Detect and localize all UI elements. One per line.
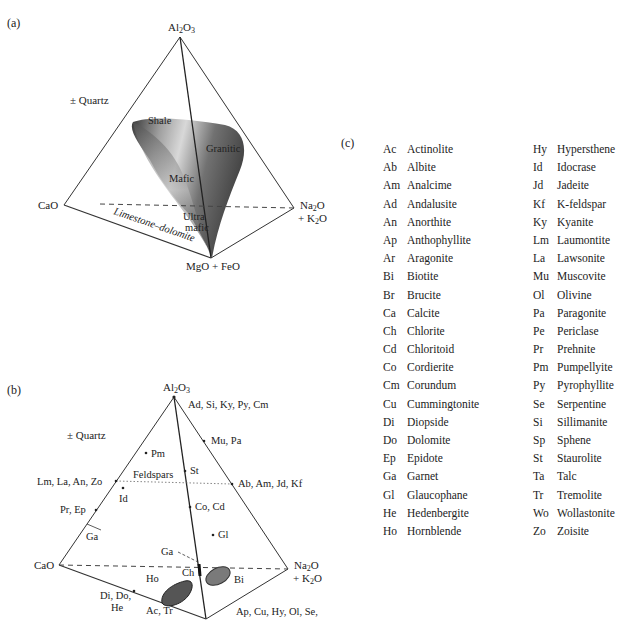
label-ap-cu: Ap, Cu, Hy, Ol, Se, xyxy=(236,606,318,617)
legend-item: DoDolomite xyxy=(383,431,479,449)
label-gl: Gl xyxy=(218,529,229,540)
legend-item: OlOlivine xyxy=(533,286,615,304)
panel-c-label: (c) xyxy=(341,136,354,151)
legend-item: HeHedenbergite xyxy=(383,504,479,522)
label-st: St xyxy=(190,465,199,476)
legend-item: BiBiotite xyxy=(383,267,479,285)
legend-item: HyHypersthene xyxy=(533,140,615,158)
label-bi: Bi xyxy=(234,574,244,585)
label-ad-si: Ad, Si, Ky, Py, Cm xyxy=(188,399,268,410)
legend-item: SeSerpentine xyxy=(533,395,615,413)
vertex-al2o3: Al2O3 xyxy=(168,21,195,35)
vertex-na2o: Na2O xyxy=(300,199,325,213)
legend-item: PmPumpellyite xyxy=(533,358,615,376)
vertex-na2o-b: Na2O xyxy=(294,559,319,573)
label-ga-center: Ga xyxy=(161,546,174,557)
legend-item: JdJadeite xyxy=(533,176,615,194)
label-ga-left: Ga xyxy=(86,531,99,542)
label-co-cd: Co, Cd xyxy=(195,501,226,512)
vertex-k2o: + K2O xyxy=(298,212,327,226)
legend-right-column: HyHypersthene IdIdocrase JdJadeite KfK-f… xyxy=(533,140,615,540)
legend-item: AmAnalcime xyxy=(383,176,479,194)
tetrahedron-diagram-a: Al2O3 CaO Na2O + K2O MgO + FeO ± Quartz … xyxy=(0,0,330,300)
legend-left-column: AcActinolite AbAlbite AmAnalcime AdAndal… xyxy=(383,140,479,540)
legend-item: ArAragonite xyxy=(383,249,479,267)
vertex-cao-b: CaO xyxy=(34,559,54,571)
quartz-label: ± Quartz xyxy=(70,94,109,106)
label-id: Id xyxy=(119,493,128,504)
vertex-mgo-feo: MgO + FeO xyxy=(186,260,240,272)
region-granitic: Granitic xyxy=(206,143,241,154)
legend-item: ZoZoisite xyxy=(533,522,615,540)
legend-item: AcActinolite xyxy=(383,140,479,158)
tetrahedron-diagram-b: Al2O3 CaO Na2O + K2O ± Quartz Ad, Si, Ky… xyxy=(0,320,335,620)
legend-item: AbAlbite xyxy=(383,158,479,176)
vertex-al2o3-b: Al2O3 xyxy=(163,381,190,395)
legend-item: ChChlorite xyxy=(383,322,479,340)
legend-item: ApAnthophyllite xyxy=(383,231,479,249)
legend-item: EpEpidote xyxy=(383,449,479,467)
legend-item: CmCorundum xyxy=(383,376,479,394)
hornblende-blob xyxy=(162,581,192,606)
vertex-k2o-b: + K2O xyxy=(293,572,322,586)
quartz-label-b: ± Quartz xyxy=(67,429,106,441)
legend-item: BrBrucite xyxy=(383,286,479,304)
legend-item: TrTremolite xyxy=(533,486,615,504)
label-he: He xyxy=(111,602,124,613)
region-mafic: Mafic xyxy=(169,173,194,184)
label-ho: Ho xyxy=(146,573,159,584)
legend-item: IdIdocrase xyxy=(533,158,615,176)
legend-item: StStaurolite xyxy=(533,449,615,467)
legend-item: LmLaumontite xyxy=(533,231,615,249)
legend-item: GaGarnet xyxy=(383,467,479,485)
label-ac-tr: Ac, Tr xyxy=(146,605,173,616)
legend-item: MuMuscovite xyxy=(533,267,615,285)
legend-item: PePericlase xyxy=(533,322,615,340)
legend-item: PyPyrophyllite xyxy=(533,376,615,394)
label-pm: Pm xyxy=(151,448,165,459)
region-shale: Shale xyxy=(148,115,172,126)
legend-item: PrPrehnite xyxy=(533,340,615,358)
legend-item: CoCordierite xyxy=(383,358,479,376)
legend-item: KfK-feldspar xyxy=(533,195,615,213)
legend-item: WoWollastonite xyxy=(533,504,615,522)
legend-item: DiDiopside xyxy=(383,413,479,431)
legend-item: KyKyanite xyxy=(533,213,615,231)
label-mu-pa: Mu, Pa xyxy=(211,435,242,446)
biotite-blob xyxy=(203,563,233,589)
legend-item: TaTalc xyxy=(533,467,615,485)
legend-item: LaLawsonite xyxy=(533,249,615,267)
legend-item: SpSphene xyxy=(533,431,615,449)
legend-item: AnAnorthite xyxy=(383,213,479,231)
label-feldspars: Feldspars xyxy=(133,469,173,480)
legend-item: AdAndalusite xyxy=(383,195,479,213)
label-ab-am: Ab, Am, Jd, Kf xyxy=(238,478,303,489)
legend-item: CuCummingtonite xyxy=(383,395,479,413)
legend-item: CdChloritoid xyxy=(383,340,479,358)
legend-item: PaParagonite xyxy=(533,304,615,322)
legend-item: SiSillimanite xyxy=(533,413,615,431)
vertex-cao: CaO xyxy=(38,199,58,211)
label-lm-la: Lm, La, An, Zo xyxy=(37,476,102,487)
region-ultra: Ultra xyxy=(183,211,205,222)
legend-item: HoHornblende xyxy=(383,522,479,540)
legend-item: CaCalcite xyxy=(383,304,479,322)
label-pr-ep: Pr, Ep xyxy=(60,504,86,515)
legend-item: GlGlaucophane xyxy=(383,486,479,504)
label-ch: Ch xyxy=(182,567,195,578)
label-di-do: Di, Do, xyxy=(100,590,131,601)
